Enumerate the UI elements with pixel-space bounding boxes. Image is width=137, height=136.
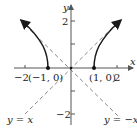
y-tick-label-2: 2 [62, 16, 68, 27]
asymptote-y-equals-x [25, 20, 120, 114]
point-neg1-0 [46, 66, 50, 70]
hyperbola-diagram: x y 2 −2 −2 2 (−1, 0) (1, 0) y = x y = −… [0, 0, 137, 136]
y-axis-label: y [62, 2, 69, 13]
point-1-0 [92, 66, 96, 70]
point-label-neg1-0: (−1, 0) [28, 72, 63, 83]
asymptote-label-y-equals-neg-x: y = −x [103, 114, 137, 125]
point-label-1-0: (1, 0) [89, 72, 116, 83]
curve-left-branch [22, 21, 48, 68]
x-axis [14, 65, 133, 68]
origin-dot [70, 67, 73, 70]
x-tick-label-neg2: −2 [14, 72, 29, 83]
asymptote-label-y-equals-x: y = x [6, 114, 33, 125]
curve-right-branch [94, 21, 120, 68]
x-axis-label: x [130, 56, 136, 67]
y-axis [71, 5, 75, 125]
y-tick-label-neg2: −2 [56, 109, 71, 120]
